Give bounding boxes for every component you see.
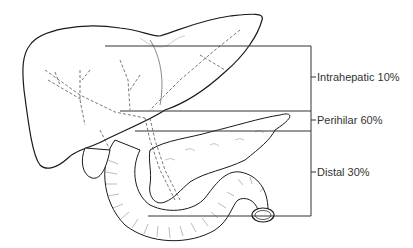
biliary-anatomy-diagram: Intrahepatic 10% Perihilar 60% Distal 30… — [0, 0, 413, 248]
label-perihilar: Perihilar 60% — [317, 114, 382, 126]
label-distal: Distal 30% — [317, 166, 370, 178]
label-intrahepatic: Intrahepatic 10% — [317, 71, 400, 83]
